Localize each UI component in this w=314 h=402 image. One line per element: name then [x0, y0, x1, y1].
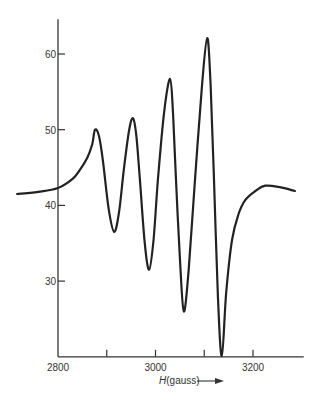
x-axis-label-unit: (gauss) — [166, 375, 199, 386]
x-ticks: 280030003200 — [47, 350, 265, 373]
spectrum-line — [17, 38, 295, 356]
y-tick-label: 40 — [45, 200, 57, 211]
x-tick-label: 3000 — [144, 362, 167, 373]
arrow-right-icon — [215, 378, 224, 384]
x-axis-label: H(gauss) — [159, 375, 224, 386]
y-tick-label: 30 — [45, 276, 57, 287]
svg-text:H(gauss): H(gauss) — [159, 375, 200, 386]
esr-chart: 280030003200 30405060 H(gauss) — [0, 0, 314, 402]
x-tick-label: 2800 — [47, 362, 70, 373]
y-tick-label: 60 — [45, 49, 57, 60]
y-ticks: 30405060 — [45, 49, 65, 287]
x-tick-label: 3200 — [242, 362, 265, 373]
y-tick-label: 50 — [45, 125, 57, 136]
